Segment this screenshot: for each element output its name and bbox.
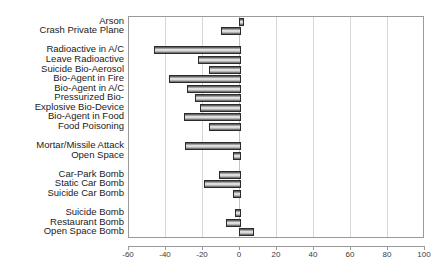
bar bbox=[226, 219, 241, 227]
bar bbox=[169, 75, 241, 83]
bar bbox=[198, 56, 241, 64]
category-label: Food Poisoning bbox=[58, 121, 124, 131]
category-label: Suicide Car Bomb bbox=[47, 188, 124, 198]
x-tick-label: 40 bbox=[309, 251, 318, 259]
category-label: Open Space bbox=[71, 150, 124, 160]
x-tick-label: 80 bbox=[383, 251, 392, 259]
bar bbox=[195, 94, 241, 102]
x-tick-label: -20 bbox=[196, 251, 208, 259]
x-tick-label: 20 bbox=[272, 251, 281, 259]
bar bbox=[209, 123, 241, 131]
x-tick-label: 100 bbox=[417, 251, 430, 259]
bar bbox=[209, 66, 241, 74]
bar bbox=[239, 228, 254, 236]
x-tick-label: -40 bbox=[159, 251, 171, 259]
bar bbox=[219, 171, 241, 179]
bar bbox=[187, 85, 241, 93]
bar bbox=[200, 104, 241, 112]
x-tick-label: -60 bbox=[122, 251, 134, 259]
bar bbox=[154, 46, 241, 54]
bar bbox=[233, 152, 241, 160]
bar bbox=[233, 190, 241, 198]
bar-series bbox=[129, 17, 423, 237]
category-axis-labels: ArsonCrash Private PlaneRadioactive in A… bbox=[0, 16, 126, 238]
x-tick-label: 60 bbox=[346, 251, 355, 259]
bar bbox=[184, 113, 242, 121]
bar bbox=[221, 27, 241, 35]
bar bbox=[235, 209, 241, 217]
horizontal-bar-chart: ArsonCrash Private PlaneRadioactive in A… bbox=[0, 0, 445, 278]
category-label: Crash Private Plane bbox=[40, 25, 124, 35]
category-label: Open Space Bomb bbox=[44, 226, 124, 236]
bar bbox=[239, 18, 244, 26]
x-tick-label: 0 bbox=[237, 251, 241, 259]
bar bbox=[185, 142, 241, 150]
bar bbox=[204, 180, 241, 188]
